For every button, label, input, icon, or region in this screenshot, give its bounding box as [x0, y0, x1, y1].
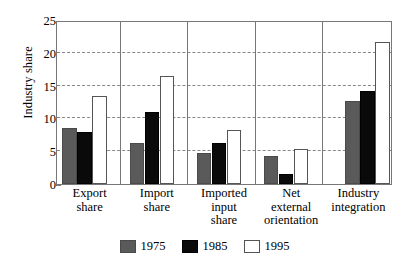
y-tick-label-20: 20 [10, 48, 56, 61]
bar-1995-5 [375, 42, 390, 184]
bar-1985-1 [77, 132, 92, 184]
bar-group-1 [62, 22, 107, 184]
bar-1995-2 [160, 76, 175, 184]
legend-label-1975: 1975 [141, 240, 166, 253]
bar-group-2 [130, 22, 175, 184]
plot-area [56, 21, 392, 185]
chart-legend: 197519851995 [0, 240, 409, 253]
x-axis-label-5: Industryintegration [317, 187, 400, 214]
bar-1985-2 [145, 112, 160, 184]
legend-label-1995: 1995 [265, 240, 290, 253]
legend-entry-1985[interactable]: 1985 [182, 240, 228, 253]
y-tick-label-15: 15 [10, 80, 56, 93]
series-1995-swatch [244, 240, 260, 253]
legend-label-1985: 1985 [203, 240, 228, 253]
y-tick-label-5: 5 [10, 146, 56, 159]
bar-1985-4 [279, 174, 294, 184]
y-tick-label-10: 10 [10, 113, 56, 126]
bar-1975-2 [130, 143, 145, 184]
y-axis-tick-container: 0510152025 [0, 21, 56, 185]
bar-1985-5 [360, 91, 375, 184]
bar-1995-4 [294, 149, 309, 184]
bar-chart: Industry share 0510152025 ExportshareImp… [0, 0, 409, 269]
bar-1975-5 [345, 101, 360, 184]
legend-entry-1995[interactable]: 1995 [244, 240, 290, 253]
x-label-line: integration [317, 201, 400, 215]
bar-group-5 [345, 22, 390, 184]
x-axis-labels: ExportshareImportshareImportedinputshare… [56, 187, 392, 233]
bar-1995-1 [92, 96, 107, 184]
x-label-line: Industry [317, 187, 400, 201]
y-tick-label-25: 25 [10, 15, 56, 28]
bar-1975-4 [264, 156, 279, 184]
bar-group-4 [264, 22, 309, 184]
x-label-line: orientation [250, 214, 333, 228]
bar-1975-1 [62, 128, 77, 184]
series-1985-swatch [182, 240, 198, 253]
bar-1995-3 [227, 130, 242, 184]
y-tick-mark-0 [56, 185, 61, 186]
bar-1985-3 [212, 143, 227, 184]
bar-1975-3 [197, 153, 212, 184]
bars-layer [57, 22, 391, 184]
legend-entry-1975[interactable]: 1975 [120, 240, 166, 253]
series-1975-swatch [120, 240, 136, 253]
bar-group-3 [197, 22, 242, 184]
